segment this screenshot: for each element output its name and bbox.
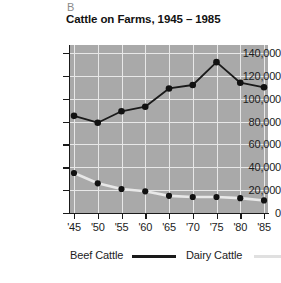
x-axis-tick-label: '85: [249, 221, 279, 233]
chart-legend: Beef Cattle Dairy Cattle: [70, 249, 270, 265]
y-axis-tick-mark: [63, 190, 69, 191]
x-axis-tick-mark: [193, 213, 194, 219]
panel-letter: B: [67, 1, 75, 13]
gridline-vertical: [217, 45, 218, 213]
y-axis-tick-label: 140,000: [221, 48, 281, 59]
gridline-vertical: [122, 45, 123, 213]
y-axis-tick-label: 100,000: [221, 94, 281, 105]
y-axis-tick-mark: [63, 167, 69, 168]
gridline-vertical: [193, 45, 194, 213]
chart-title: Cattle on Farms, 1945 – 1985: [66, 13, 220, 26]
x-axis-tick-mark: [217, 213, 218, 219]
y-axis-tick-label: 0: [221, 208, 281, 219]
legend-swatch-beef-cattle: [132, 255, 176, 258]
y-axis-tick-label: 40,000: [221, 162, 281, 173]
y-axis-tick-label: 120,000: [221, 71, 281, 82]
y-axis-tick-label: 60,000: [221, 139, 281, 150]
y-axis-tick-mark: [63, 213, 69, 214]
x-axis-tick-mark: [240, 213, 241, 219]
x-axis-tick-mark: [98, 213, 99, 219]
x-axis-tick-mark: [122, 213, 123, 219]
legend-label-dairy-cattle: Dairy Cattle: [186, 249, 242, 262]
x-axis-tick-mark: [74, 213, 75, 219]
y-axis-tick-label: 20,000: [221, 185, 281, 196]
x-axis-tick-mark: [145, 213, 146, 219]
chart-figure: B Cattle on Farms, 1945 – 1985 140,00012…: [0, 0, 281, 283]
y-axis-tick-mark: [63, 76, 69, 77]
gridline-vertical: [145, 45, 146, 213]
y-axis-tick-mark: [63, 122, 69, 123]
y-axis-tick-mark: [63, 144, 69, 145]
legend-swatch-dairy-cattle: [254, 255, 281, 258]
y-axis-tick-mark: [63, 53, 69, 54]
gridline-vertical: [74, 45, 75, 213]
x-axis-tick-mark: [264, 213, 265, 219]
y-axis-tick-label: 80,000: [221, 117, 281, 128]
legend-label-beef-cattle: Beef Cattle: [70, 249, 123, 262]
x-axis-tick-mark: [169, 213, 170, 219]
y-axis-tick-mark: [63, 99, 69, 100]
gridline-vertical: [169, 45, 170, 213]
gridline-vertical: [98, 45, 99, 213]
y-axis-line: [69, 45, 70, 214]
